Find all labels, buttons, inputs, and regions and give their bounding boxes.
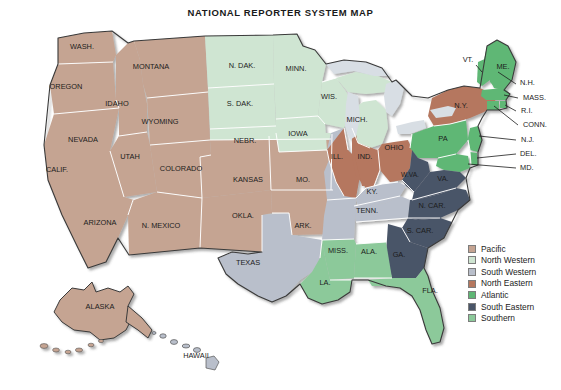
callout-label-r-i: R.I. bbox=[521, 106, 533, 115]
state-label-nevada: NEVADA bbox=[68, 135, 98, 144]
state-label-s-car: S. CAR. bbox=[407, 226, 434, 235]
state-label-ill: ILL. bbox=[331, 152, 343, 161]
map-legend: PacificNorth WesternSouth WesternNorth E… bbox=[468, 243, 560, 324]
state-label-kansas: KANSAS bbox=[233, 175, 263, 184]
leader-nj bbox=[479, 136, 516, 140]
legend-item-label: Southern bbox=[481, 314, 515, 322]
state-label-mich: MICH. bbox=[347, 115, 368, 124]
state-label-w-va: W.VA. bbox=[401, 171, 419, 178]
callout-label-n-h: N.H. bbox=[520, 78, 535, 87]
callout-label-conn: CONN. bbox=[523, 120, 547, 129]
state-arkansas[interactable] bbox=[322, 198, 356, 240]
legend-swatch-icon bbox=[468, 314, 476, 322]
state-label-wyoming: WYOMING bbox=[142, 117, 179, 126]
state-label-utah: UTAH bbox=[120, 152, 140, 161]
legend-item-label: South Western bbox=[481, 268, 536, 276]
leader-conn bbox=[494, 106, 518, 125]
state-florida[interactable] bbox=[368, 268, 444, 344]
legend-swatch-icon bbox=[468, 280, 476, 288]
state-label-texas: TEXAS bbox=[236, 258, 260, 267]
island-niihau bbox=[152, 332, 156, 335]
state-label-ga: GA. bbox=[393, 250, 406, 259]
state-label-wis: WIS. bbox=[321, 92, 337, 101]
legend-item-label: Pacific bbox=[481, 245, 506, 253]
legend-swatch-icon bbox=[468, 291, 476, 299]
legend-swatch-icon bbox=[468, 268, 476, 276]
state-label-nebr: NEBR. bbox=[234, 136, 257, 145]
state-label-minn: MINN. bbox=[286, 64, 307, 73]
legend-item-south-eastern[interactable]: South Eastern bbox=[468, 301, 560, 313]
callout-label-mass: MASS. bbox=[523, 93, 546, 102]
state-label-iowa: IOWA bbox=[288, 129, 308, 138]
state-label-okla: OKLA. bbox=[232, 211, 254, 220]
us-map: WASH.OREGONIDAHOMONTANAWYOMINGNEVADACALI… bbox=[0, 0, 561, 390]
state-label-idaho: IDAHO bbox=[105, 99, 129, 108]
legend-item-north-eastern[interactable]: North Eastern bbox=[468, 278, 560, 290]
state-label-ala: ALA. bbox=[361, 247, 377, 256]
legend-item-label: Atlantic bbox=[481, 291, 508, 299]
legend-item-north-western[interactable]: North Western bbox=[468, 255, 560, 267]
island-molokai bbox=[182, 344, 190, 348]
state-label-la: LA. bbox=[319, 278, 330, 287]
state-label-montana: MONTANA bbox=[133, 62, 169, 71]
state-label-fla: FLA. bbox=[422, 286, 438, 295]
state-minnesota[interactable] bbox=[273, 34, 326, 119]
state-label-vt: VT. bbox=[463, 55, 474, 64]
state-label-n-y: N.Y. bbox=[454, 101, 467, 110]
leader-del bbox=[477, 154, 516, 158]
state-label-ohio: OHIO bbox=[385, 143, 404, 152]
alaska-inset[interactable] bbox=[40, 282, 152, 354]
state-label-arizona: ARIZONA bbox=[84, 218, 117, 227]
alaska-panhandle[interactable] bbox=[126, 306, 152, 338]
state-new-mexico[interactable] bbox=[200, 190, 272, 252]
callout-label-md: MD. bbox=[520, 163, 534, 172]
legend-item-label: North Western bbox=[481, 256, 535, 264]
state-label-pa: PA bbox=[438, 134, 447, 143]
state-label-calif: CALIF. bbox=[46, 165, 68, 174]
legend-item-label: South Eastern bbox=[481, 303, 534, 311]
state-label-ark: ARK. bbox=[294, 221, 311, 230]
state-label-n-dak: N. DAK. bbox=[229, 61, 256, 70]
state-label-me: ME. bbox=[496, 62, 509, 71]
state-label-ind: IND. bbox=[358, 152, 373, 161]
legend-item-south-western[interactable]: South Western bbox=[468, 266, 560, 278]
state-label-mo: MO. bbox=[296, 175, 310, 184]
island-kauai bbox=[160, 334, 166, 338]
state-label-alaska: ALASKA bbox=[86, 302, 115, 311]
state-label-s-dak: S. DAK. bbox=[227, 99, 253, 108]
legend-swatch-icon bbox=[468, 303, 476, 311]
state-massachusetts[interactable] bbox=[481, 88, 510, 100]
state-label-ky: KY. bbox=[367, 187, 378, 196]
legend-item-atlantic[interactable]: Atlantic bbox=[468, 289, 560, 301]
state-label-n-car: N. CAR. bbox=[418, 201, 445, 210]
callout-label-n-j: N.J. bbox=[521, 135, 534, 144]
legend-swatch-icon bbox=[468, 256, 476, 264]
state-label-oregon: OREGON bbox=[50, 82, 83, 91]
callout-label-del: DEL. bbox=[520, 149, 536, 158]
state-label-n-mexico: N. MEXICO bbox=[142, 221, 181, 230]
legend-item-label: North Eastern bbox=[481, 279, 533, 287]
callout-label-layer: N.H.MASS.R.I.CONN.N.J.DEL.MD. bbox=[520, 78, 547, 172]
island-oahu bbox=[170, 340, 177, 345]
state-colorado[interactable] bbox=[200, 136, 271, 198]
state-label-tenn: TENN. bbox=[356, 206, 378, 215]
state-label-wash: WASH. bbox=[70, 42, 94, 51]
state-label-va: VA. bbox=[437, 174, 448, 183]
state-label-hawaii: HAWAII bbox=[183, 351, 209, 360]
legend-item-pacific[interactable]: Pacific bbox=[468, 243, 560, 255]
legend-swatch-icon bbox=[468, 245, 476, 253]
state-label-miss: MISS. bbox=[328, 246, 348, 255]
legend-item-southern[interactable]: Southern bbox=[468, 313, 560, 325]
aleutian-islands bbox=[40, 339, 104, 353]
state-label-colorado: COLORADO bbox=[160, 164, 203, 173]
state-alaska[interactable] bbox=[54, 282, 134, 340]
